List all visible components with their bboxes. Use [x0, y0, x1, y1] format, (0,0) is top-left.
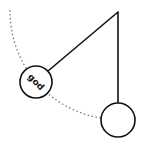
- pendulum-pivot: [117, 11, 119, 13]
- rest-bob-circle: [101, 103, 135, 137]
- swung-bob: god: [20, 66, 52, 98]
- pendulum-diagram: god: [0, 0, 144, 148]
- pendulum-string-swung: [48, 12, 118, 71]
